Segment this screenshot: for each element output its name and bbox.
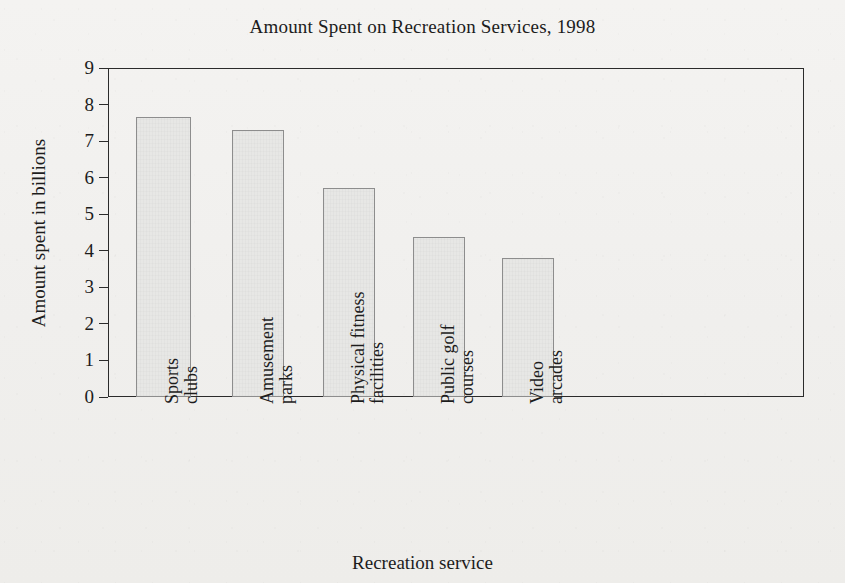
y-tick-label-7: 7 (85, 130, 95, 152)
y-tick-mark-5 (99, 214, 108, 215)
x-category-line1: Public golf (439, 325, 458, 405)
y-tick-label-1: 1 (85, 349, 95, 371)
y-axis-label: Amount spent in billions (26, 68, 52, 397)
y-tick-label-3: 3 (85, 276, 95, 298)
x-category-line1: Amusement (258, 317, 277, 404)
y-tick-label-4: 4 (85, 240, 95, 262)
x-category-line2: facilities (368, 292, 387, 405)
y-tick-mark-6 (99, 177, 108, 178)
x-category-line2: parks (277, 317, 296, 404)
x-category-line1: Video (528, 350, 547, 404)
y-tick-label-6: 6 (85, 167, 95, 189)
x-category-line2: clubs (182, 358, 201, 404)
y-tick-label-9: 9 (85, 57, 95, 79)
y-tick-6: 6 (85, 167, 109, 189)
x-category-line2: arcades (547, 350, 566, 404)
x-category-line1: Sports (163, 358, 182, 404)
x-category-line2: courses (458, 325, 477, 405)
y-tick-label-2: 2 (85, 313, 95, 335)
y-tick-label-0: 0 (85, 386, 95, 408)
y-tick-label-8: 8 (85, 94, 95, 116)
y-tick-7: 7 (85, 130, 109, 152)
y-tick-1: 1 (85, 349, 109, 371)
y-tick-mark-1 (99, 360, 108, 361)
y-tick-mark-8 (99, 104, 108, 105)
y-tick-0: 0 (85, 386, 109, 408)
y-tick-mark-7 (99, 141, 108, 142)
y-tick-5: 5 (85, 203, 109, 225)
y-tick-label-5: 5 (85, 203, 95, 225)
y-tick-9: 9 (85, 57, 109, 79)
y-tick-mark-9 (99, 68, 108, 69)
y-tick-2: 2 (85, 313, 109, 335)
x-category-line1: Physical fitness (349, 292, 368, 405)
y-tick-mark-4 (99, 250, 108, 251)
bar-sports-clubs[interactable] (136, 117, 191, 397)
y-tick-3: 3 (85, 276, 109, 298)
chart-title: Amount Spent on Recreation Services, 199… (0, 16, 845, 38)
x-axis-label: Recreation service (0, 552, 845, 574)
y-tick-4: 4 (85, 240, 109, 262)
y-tick-8: 8 (85, 94, 109, 116)
y-tick-mark-3 (99, 287, 108, 288)
y-tick-mark-2 (99, 323, 108, 324)
y-tick-mark-0 (99, 397, 108, 398)
y-axis-label-text: Amount spent in billions (28, 138, 50, 326)
